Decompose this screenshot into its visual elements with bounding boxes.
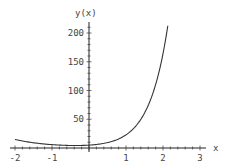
y-tick-label: 150 xyxy=(68,57,84,67)
y-tick-label: 50 xyxy=(73,114,84,124)
x-axis-label: x xyxy=(213,143,219,153)
x-tick-label: -2 xyxy=(10,153,21,163)
x-tick-label: 3 xyxy=(197,153,202,163)
x-tick-label: 1 xyxy=(123,153,128,163)
y-ticks: 50100150200 xyxy=(68,27,92,142)
y-tick-label: 100 xyxy=(68,86,84,96)
y-tick-label: 200 xyxy=(68,28,84,38)
x-tick-label: -1 xyxy=(47,153,58,163)
y-axis-label: y(x) xyxy=(75,8,97,18)
function-plot: -2-1123 50100150200 y(x) x xyxy=(0,0,225,168)
curve-line xyxy=(15,26,168,146)
x-tick-label: 2 xyxy=(160,153,165,163)
